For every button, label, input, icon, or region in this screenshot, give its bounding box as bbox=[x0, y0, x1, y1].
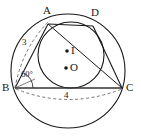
measure-label-ab: 3 bbox=[22, 38, 27, 47]
vertex-label-d: D bbox=[91, 7, 99, 18]
dashed-arc-bc bbox=[16, 89, 122, 100]
measure-label-angle-b: 60° bbox=[21, 70, 33, 79]
incenter-dot bbox=[65, 49, 69, 53]
circumcenter-dot bbox=[64, 66, 68, 70]
chord-dc bbox=[93, 26, 122, 88]
vertex-label-a: A bbox=[43, 5, 51, 16]
geometry-figure: A D B C I O 3 4 60° bbox=[0, 0, 141, 137]
center-label-o: O bbox=[70, 62, 78, 73]
center-label-i: I bbox=[71, 45, 75, 56]
vertex-label-c: C bbox=[126, 82, 133, 93]
measure-label-bc: 4 bbox=[64, 91, 69, 100]
vertex-label-b: B bbox=[2, 82, 9, 93]
